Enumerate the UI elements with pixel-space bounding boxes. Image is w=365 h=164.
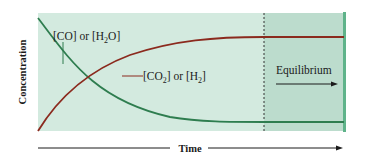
chart: [CO] or [H2O] [CO2] or [H2] Equilibrium …: [0, 0, 365, 164]
x-axis-arrow-icon: [336, 146, 343, 151]
x-axis-label: Time: [178, 143, 201, 154]
plot-right-border: [343, 12, 346, 132]
y-axis-label: Concentration: [17, 39, 28, 104]
equilibrium-label: Equilibrium: [276, 64, 332, 77]
